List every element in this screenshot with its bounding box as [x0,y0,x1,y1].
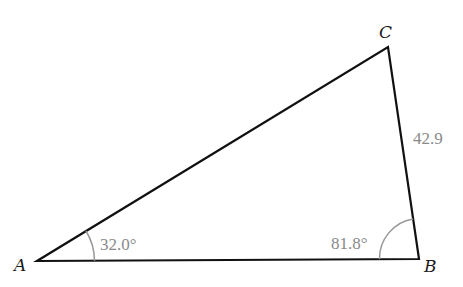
angle-a-arc [86,231,95,261]
triangle-diagram: A B C 32.0° 81.8° 42.9 [0,0,463,287]
vertex-label-a: A [12,255,26,275]
vertex-label-b: B [423,256,437,276]
side-bc-label: 42.9 [413,129,443,148]
angle-b-label: 81.8° [331,234,368,253]
angle-a-label: 32.0° [100,235,137,254]
vertex-label-c: C [379,22,392,42]
angle-b-arc [379,219,413,259]
triangle-abc [37,47,419,261]
